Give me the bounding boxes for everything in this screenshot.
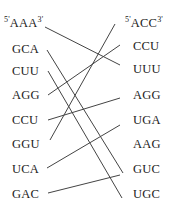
left-codon-1: GCA [12, 42, 39, 56]
line-ggu-acc [50, 24, 115, 140]
five-prime-label: 5' [4, 15, 10, 24]
left-codon-5: GGU [12, 137, 40, 151]
right-codon-5: AAG [133, 137, 161, 151]
left-codon-7: GAC [12, 187, 39, 201]
left-codon-3: AGG [12, 88, 40, 102]
three-prime-label: 3' [38, 15, 44, 24]
left-codon-4: CCU [12, 113, 38, 127]
right-codon-0: 5'ACC3' [125, 16, 163, 32]
line-gac-guc [48, 175, 120, 193]
right-codon-4: UGA [133, 113, 161, 127]
right-codon-6: GUC [133, 162, 160, 176]
left-codon-0: 5'AAA3' [4, 16, 43, 32]
left-codon-6: UCA [12, 162, 39, 176]
line-ccu-agg [48, 98, 120, 120]
right-codon-1: CCU [133, 39, 159, 53]
three-prime-label: 3' [157, 15, 163, 24]
right-codon-3: AGG [133, 88, 161, 102]
right-codon-2: UUU [133, 62, 161, 76]
line-cuu-ugc [48, 71, 122, 198]
left-codon-2: CUU [12, 64, 39, 78]
connection-lines [0, 0, 173, 216]
right-codon-7: UGC [133, 187, 160, 201]
five-prime-label: 5' [125, 15, 131, 24]
line-aaa-uuu [45, 27, 120, 65]
line-gca-aag [47, 50, 123, 173]
